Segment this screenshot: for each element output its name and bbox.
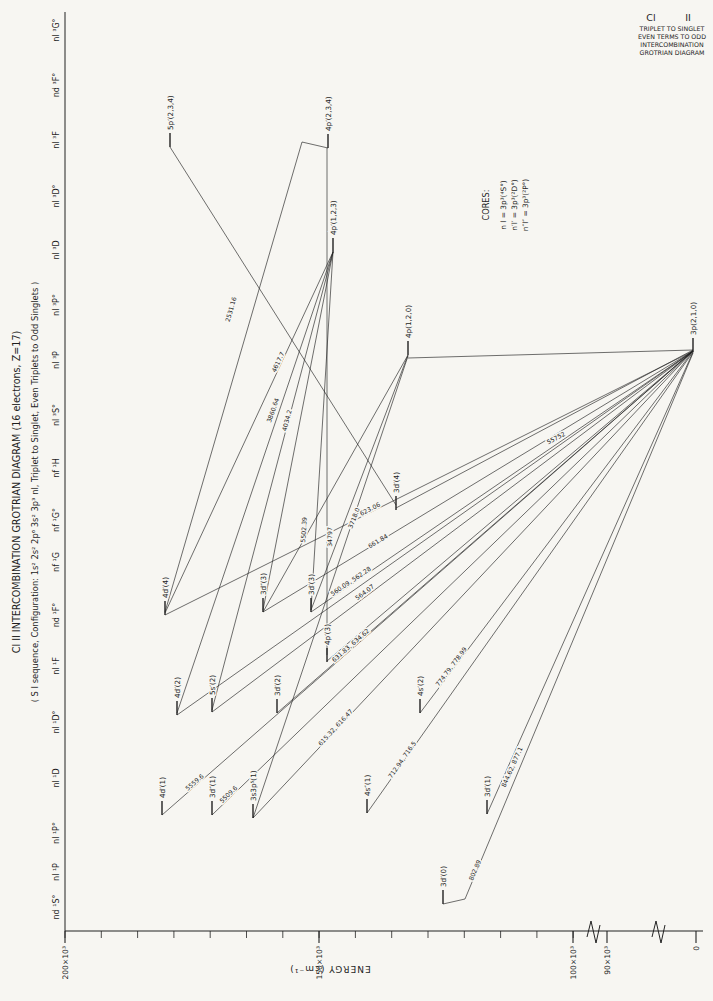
level-label: 3d″(1) — [208, 776, 217, 798]
energy-axis-label: ENERGY (cm⁻¹) — [289, 964, 370, 974]
corner-line-3: INTERCOMBINATION — [640, 41, 704, 48]
axis-break-mark — [587, 921, 600, 943]
diagram-content: 2531.16347975502.394617.73860.644034.237… — [52, 12, 703, 980]
cores-item-3: n″l″ = 3p³(²P°) — [521, 179, 530, 232]
wavelength-label: 3860.64 — [265, 397, 280, 424]
wavelength-label: 2531.16 — [224, 296, 238, 323]
transition-line — [253, 356, 408, 818]
wavelength-label: 774.79, 778.99 — [434, 645, 468, 687]
axis-tick-label: 150×10³ — [315, 946, 324, 980]
transition-line — [170, 147, 396, 505]
page-title: Cl II INTERCOMBINATION GROTRIAN DIAGRAM … — [11, 331, 22, 654]
term-header: nl ³G° — [52, 18, 61, 41]
level-label: 4s″(1) — [363, 775, 372, 796]
cores-item-1: n l = 3p³(⁴S°) — [499, 180, 508, 230]
transition-line — [263, 351, 693, 612]
term-header: nl ³P — [52, 351, 61, 369]
level-label: 3d′(1) — [483, 776, 492, 797]
wavelength-label: 5509.6 — [218, 784, 238, 804]
term-header: nl ¹D° — [52, 710, 61, 733]
level-label: 3d″(3) — [259, 573, 268, 595]
transition-line — [165, 252, 333, 613]
level-label: 4d′(1) — [158, 777, 167, 798]
level-label: 5p′(2,3,4) — [166, 95, 175, 130]
term-header: nd ¹S° — [52, 895, 61, 920]
level-label: 3d′(0) — [439, 866, 448, 887]
transition-line — [327, 351, 693, 661]
level-label: 3s3p⁵(1) — [249, 770, 258, 801]
wavelength-label: 4617.7 — [270, 351, 286, 374]
scanned-page: Cl II INTERCOMBINATION GROTRIAN DIAGRAM … — [0, 0, 713, 1001]
wavelength-label: 5502.39 — [299, 517, 308, 543]
term-header: nl ³D — [52, 240, 61, 259]
level-label: 4p′(2,3,4) — [324, 96, 333, 131]
term-header: nl ³D° — [52, 184, 61, 207]
transition-line — [396, 350, 693, 508]
term-header: nl ¹P° — [52, 822, 61, 844]
transition-line — [177, 351, 693, 715]
transition-line — [165, 351, 693, 615]
axis-tick-label: 100×10³ — [569, 946, 578, 980]
grotrian-diagram: Cl II INTERCOMBINATION GROTRIAN DIAGRAM … — [0, 0, 713, 1001]
cores-heading: CORES: — [481, 190, 491, 221]
transition-line — [177, 252, 333, 713]
level-label: 4d′(2) — [173, 677, 182, 698]
transition-line — [408, 350, 693, 358]
page-subtitle: ( S I sequence, Configuration: 1s² 2s² 2… — [30, 282, 40, 703]
corner-line-4: GROTRIAN DIAGRAM — [640, 49, 705, 56]
wavelength-label: 55752 — [545, 430, 566, 445]
wavelength-label: 802.89 — [467, 859, 482, 882]
term-header: nl ³S° — [52, 404, 61, 426]
wavelength-label: 615.32, 616.47 — [317, 708, 354, 747]
term-header: nd ³F° — [52, 73, 61, 98]
transition-line — [263, 252, 333, 610]
wavelength-label: 4034.2 — [280, 409, 292, 432]
term-header: nf ¹H — [52, 458, 61, 478]
term-header: nd ¹F° — [52, 603, 61, 628]
wavelength-label: 5559.6 — [184, 772, 205, 792]
axis-break-mark — [652, 921, 665, 943]
term-header: nl ¹D — [52, 768, 61, 787]
axis-tick-label: 90×10³ — [603, 946, 612, 975]
transition-line — [311, 252, 333, 610]
wavelength-label: 712.94, 716.5 — [387, 740, 418, 780]
cores-item-2: n′l′ = 3p³(²D°) — [510, 179, 519, 231]
level-label: 4d′(4) — [161, 577, 170, 598]
level-label: 3d′(2) — [273, 675, 282, 696]
axis-tick-label: 0 — [692, 946, 701, 951]
transition-line — [253, 351, 693, 818]
term-header: nf ¹G° — [52, 508, 61, 532]
corner-line-1: TRIPLET TO SINGLET — [639, 25, 705, 32]
wavelength-label: 631.83, 634.62 — [330, 627, 370, 663]
level-label: 5s′(2) — [208, 675, 217, 695]
term-header: nl ³F — [52, 131, 61, 149]
level-label: 4p′(1,2,3) — [329, 200, 338, 235]
term-header: nf ¹G — [52, 552, 61, 572]
term-header: nl ¹P — [52, 863, 61, 881]
corner-ion: II — [685, 12, 691, 23]
term-header: nl ³P° — [52, 294, 61, 316]
axis-tick-label: 200×10³ — [61, 946, 70, 980]
wavelength-label: 661.84 — [367, 532, 389, 549]
wavelength-label: 34797 — [326, 527, 333, 547]
level-label: 4s′(2) — [416, 676, 425, 696]
level-label: 3p(2,1,0) — [689, 302, 698, 335]
level-label: 3d′(3) — [307, 574, 316, 595]
corner-element: Cl — [646, 12, 655, 23]
corner-line-2: EVEN TERMS TO ODD — [638, 33, 706, 40]
level-label: 4p(1,2,0) — [404, 305, 413, 338]
term-header: nl ¹F — [52, 657, 61, 675]
level-label: 4p′(3) — [323, 624, 332, 645]
transition-line — [263, 355, 408, 612]
level-label: 3d′(4) — [392, 472, 401, 493]
